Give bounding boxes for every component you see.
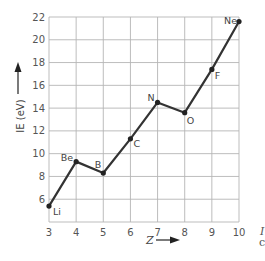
margin-fragment-2: c [259, 236, 265, 249]
y-tick-label: 6 [39, 194, 45, 205]
y-tick-label: 20 [32, 34, 45, 45]
ionization-energy-chart: 6810121416182022 345678910 LiBeBCNOFNe I… [0, 0, 265, 261]
data-point [128, 136, 133, 141]
data-point [101, 170, 106, 175]
data-point [236, 19, 241, 24]
x-tick-label: 5 [100, 227, 106, 238]
x-tick-label: 9 [209, 227, 215, 238]
data-point [209, 67, 214, 72]
y-tick-label: 22 [32, 12, 45, 23]
x-tick-label: 6 [127, 227, 133, 238]
point-label: Ne [224, 15, 237, 26]
data-point [46, 203, 51, 208]
y-tick-label: 18 [32, 57, 45, 68]
x-tick-label: 4 [73, 227, 79, 238]
data-point [155, 100, 160, 105]
point-label: O [187, 115, 194, 126]
data-series: LiBeBCNOFNe [46, 15, 241, 218]
x-tick-label: 8 [182, 227, 188, 238]
y-tick-label: 8 [39, 171, 45, 182]
point-label: N [147, 92, 154, 103]
y-axis-label: IE (eV) [15, 99, 26, 132]
y-tick-label: 16 [32, 80, 45, 91]
data-point [74, 159, 79, 164]
point-label: Be [61, 152, 74, 163]
series-line [49, 22, 239, 207]
y-tick-label: 12 [32, 125, 45, 136]
x-tick-label: 10 [233, 227, 246, 238]
point-label: C [133, 138, 140, 149]
x-tick-label: 7 [154, 227, 160, 238]
y-axis-ticks: 6810121416182022 [32, 12, 45, 205]
y-tick-label: 14 [32, 103, 45, 114]
point-label: Li [53, 206, 61, 217]
x-tick-label: 3 [46, 227, 52, 238]
point-label: F [215, 70, 220, 81]
y-axis-title: IE (eV) [15, 99, 26, 132]
up-arrow-icon [15, 62, 22, 94]
y-tick-label: 10 [32, 148, 45, 159]
x-axis-label: Z [145, 234, 154, 247]
point-label: B [95, 159, 102, 170]
